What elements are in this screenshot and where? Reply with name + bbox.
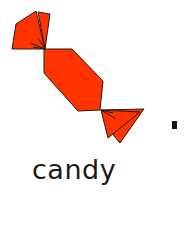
- candy-body: [44, 49, 103, 111]
- dot-marker: [172, 121, 177, 129]
- word-label: candy: [0, 154, 187, 185]
